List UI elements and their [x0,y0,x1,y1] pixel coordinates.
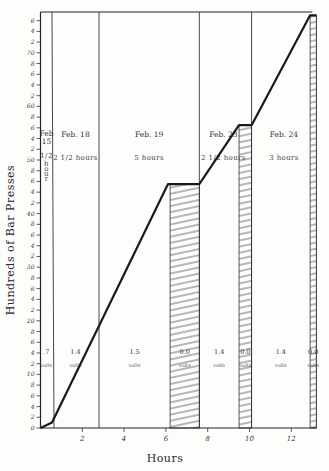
voltage-unit: volts [128,362,141,368]
y-tick-label: 8 [31,220,35,227]
y-tick-label: 2 [30,306,35,313]
y-tick-label: 4 [30,403,35,410]
x-tick-label: 6 [164,435,169,443]
y-tick-label: 4 [30,295,35,302]
y-tick-label: 4 [30,242,35,249]
y-tick-label: 6 [31,70,35,77]
session-date-label: 15 [42,137,52,146]
y-tick-label: 8 [31,60,35,67]
session-duration-label: r [45,175,49,183]
y-tick-label: 4 [30,27,35,34]
y-tick-label: 20 [26,317,35,324]
voltage-unit: volts [306,362,319,368]
x-axis-title: Hours [147,452,184,465]
x-tick-label: 8 [205,435,210,443]
y-tick-label: 2 [30,145,35,152]
y-tick-label: 6 [31,338,35,345]
y-tick-label: 6 [31,124,35,131]
y-tick-label: 4 [30,349,35,356]
voltage-unit: volts [274,362,287,368]
y-tick-label: 2 [30,38,35,45]
x-tick-label: 12 [287,435,296,443]
y-tick-label: 50 [27,156,35,163]
voltage-value: 1.4 [276,348,286,356]
x-axis: 24681012 [79,428,296,443]
hatched-extinction-region [239,125,252,428]
voltage-value: 1.4 [214,348,224,356]
y-tick-label: 6 [31,17,35,24]
voltage-value: 0.0 [240,348,250,356]
session-divider-line [52,12,54,428]
voltage-unit: volts [178,362,191,368]
y-tick-label: 8 [31,167,35,174]
y-tick-label: 2 [30,413,35,420]
session-duration-label: 2 1/2 hours [201,154,246,162]
voltage-value: 1.4 [70,348,80,356]
y-tick-label: 2 [30,252,35,259]
session-duration-label: 2 1/2 hours [53,154,98,162]
y-tick-label: 8 [31,113,35,120]
y-tick-label: 6 [31,231,35,238]
x-tick-label: 10 [245,435,254,443]
y-tick-label: 8 [31,381,35,388]
session-date-label: Feb. 18 [61,130,90,139]
y-axis: 0246810246820246830246840246850246860246… [26,17,41,431]
voltage-value: 1.5 [129,348,139,356]
x-tick-label: 4 [121,435,126,443]
y-axis-title: Hundreds of Bar Presses [4,165,17,315]
y-tick-label: 6 [31,285,35,292]
voltage-unit: volts [39,362,52,368]
y-tick-label: 70 [27,49,35,56]
session-date-label: Feb. 19 [135,130,164,139]
y-tick-label: 4 [30,81,35,88]
session-labels: Feb151/2hourFeb. 182 1/2 hoursFeb. 195 h… [39,129,298,183]
y-tick-label: 2 [30,360,35,367]
y-tick-label: 30 [27,263,35,270]
y-tick-label: 6 [31,177,35,184]
voltage-value: 0.0 [308,348,318,356]
y-tick-label: 6 [31,392,35,399]
y-tick-label: 4 [30,188,35,195]
session-duration-label: 5 hours [134,154,164,162]
voltage-unit: volts [238,362,251,368]
y-tick-label: 4 [30,135,35,142]
y-tick-label: 40 [26,210,35,217]
y-tick-label: 0 [31,424,35,431]
y-tick-label: 8 [31,328,35,335]
y-tick-label: 2 [30,199,35,206]
y-tick-label: 2 [30,92,35,99]
session-duration-label: 3 hours [269,154,299,162]
voltage-value: 0.0 [180,348,190,356]
y-tick-label: 10 [27,370,35,377]
voltage-value: .7 [43,348,49,356]
hatched-extinction-region [170,184,199,428]
x-tick-label: 2 [79,435,85,443]
y-tick-label: 60 [27,102,35,109]
voltage-unit: volts [212,362,225,368]
cumulative-record-chart: 0246810246820246830246840246850246860246… [0,0,329,471]
session-date-label: Feb. 24 [270,130,299,139]
y-tick-label: 8 [31,274,35,281]
